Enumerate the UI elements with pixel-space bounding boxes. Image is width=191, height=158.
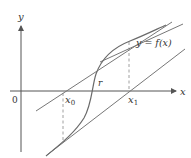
origin-label: 0 [12,95,18,105]
x1-label: x1 [128,94,138,107]
x-axis-label: x [180,86,186,97]
tangent-line-through-x0 [36,22,172,111]
newton-method-diagram: y x 0 x0 x1 r y = f(x) [0,0,191,158]
y-axis-label: y [17,11,24,22]
function-label: y = f(x) [135,37,172,48]
x0-label: x0 [65,94,75,107]
root-label: r [98,78,103,88]
